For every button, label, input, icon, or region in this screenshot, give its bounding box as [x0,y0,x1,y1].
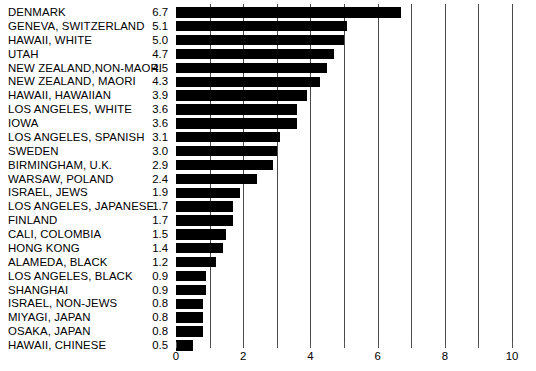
bar [176,7,401,17]
bar-track [176,228,536,242]
value-label: 3.0 [122,145,168,159]
bar-track [176,200,536,214]
bar-track [176,145,536,159]
value-label: 1.4 [122,242,168,256]
bar [176,271,206,281]
bar [176,90,307,100]
bar-track [176,131,536,145]
bar-row: ALAMEDA, BLACK1.2 [0,256,536,270]
bar-track [176,297,536,311]
value-label: 0.9 [122,270,168,284]
bar-track [176,89,536,103]
value-label: 5.1 [122,20,168,34]
bar [176,312,203,322]
bar-row: HAWAII, HAWAIIAN3.9 [0,89,536,103]
bar-row: SHANGHAI0.9 [0,284,536,298]
bar [176,35,344,45]
category-label: ISRAEL, JEWS [8,186,88,200]
bar [176,215,233,225]
value-label: 3.1 [122,131,168,145]
value-label: 3.6 [122,117,168,131]
value-label: 2.9 [122,159,168,173]
bar [176,229,226,239]
bar-row: CALI, COLOMBIA1.5 [0,228,536,242]
category-label: LOS ANGELES, WHITE [8,103,132,117]
bar-row: SWEDEN3.0 [0,145,536,159]
bar-row: UTAH4.7 [0,48,536,62]
bar [176,104,297,114]
bar [176,63,327,73]
bar-row: MIYAGI, JAPAN0.8 [0,311,536,325]
x-tick [243,342,244,348]
x-tick-label: 6 [374,350,380,362]
bar-row: LOS ANGELES, BLACK0.9 [0,270,536,284]
bar [176,49,334,59]
category-label: WARSAW, POLAND [8,173,114,187]
bar-track [176,214,536,228]
bar [176,201,233,211]
bar [176,21,347,31]
bar-track [176,103,536,117]
bar-row: ISRAEL, JEWS1.9 [0,186,536,200]
category-label: HONG KONG [8,242,80,256]
x-tick [344,342,345,348]
bar [176,326,203,336]
value-label: 0.8 [122,325,168,339]
x-tick [411,342,412,348]
x-tick-label: 8 [442,350,448,362]
value-label: 1.2 [122,256,168,270]
x-tick-label: 4 [307,350,313,362]
bar-track [176,311,536,325]
category-label: MIYAGI, JAPAN [8,311,91,325]
bar-track [176,20,536,34]
bar-row: HONG KONG1.4 [0,242,536,256]
bar [176,132,280,142]
value-label: 3.6 [122,103,168,117]
x-tick-label: 2 [240,350,246,362]
category-label: ISRAEL, NON-JEWS [8,297,117,311]
bar-rows: DENMARK6.7GENEVA, SWITZERLAND5.1HAWAII, … [0,6,536,340]
bar-track [176,34,536,48]
category-label: HAWAII, HAWAIIAN [8,89,111,103]
category-label: DENMARK [8,6,66,20]
bar-row: BIRMINGHAM, U.K.2.9 [0,159,536,173]
bar [176,118,297,128]
bar-track [176,6,536,20]
bar-row: DENMARK6.7 [0,6,536,20]
bar [176,285,206,295]
bar-track [176,325,536,339]
x-tick-label: 0 [173,350,179,362]
bar [176,299,203,309]
bar [176,174,257,184]
bar [176,243,223,253]
value-label: 4.3 [122,75,168,89]
category-label: ALAMEDA, BLACK [8,256,108,270]
bar-row: LOS ANGELES, WHITE3.6 [0,103,536,117]
x-tick [478,342,479,348]
bar-track [176,159,536,173]
bar-track [176,48,536,62]
category-label: NEW ZEALAND, MAORI [8,75,136,89]
value-label: 1.9 [122,186,168,200]
value-label: 1.7 [122,214,168,228]
bar-row: HAWAII, WHITE5.0 [0,34,536,48]
x-tick [512,342,513,348]
category-label: SHANGHAI [8,284,68,298]
value-label: 4.7 [122,48,168,62]
bar [176,160,273,170]
value-label: 0.8 [122,297,168,311]
bar-chart: DENMARK6.7GENEVA, SWITZERLAND5.1HAWAII, … [0,0,536,371]
category-label: IOWA [8,117,38,131]
category-label: BIRMINGHAM, U.K. [8,159,112,173]
bar-row: OSAKA, JAPAN0.8 [0,325,536,339]
bar-row: LOS ANGELES, JAPANESE1.7 [0,200,536,214]
bar-row: LOS ANGELES, SPANISH3.1 [0,131,536,145]
x-tick [210,342,211,348]
bar [176,146,277,156]
bar-row: IOWA3.6 [0,117,536,131]
value-label: 0.9 [122,284,168,298]
bar [176,257,216,267]
bar-track [176,173,536,187]
value-label: 1.7 [122,200,168,214]
x-tick [378,342,379,348]
